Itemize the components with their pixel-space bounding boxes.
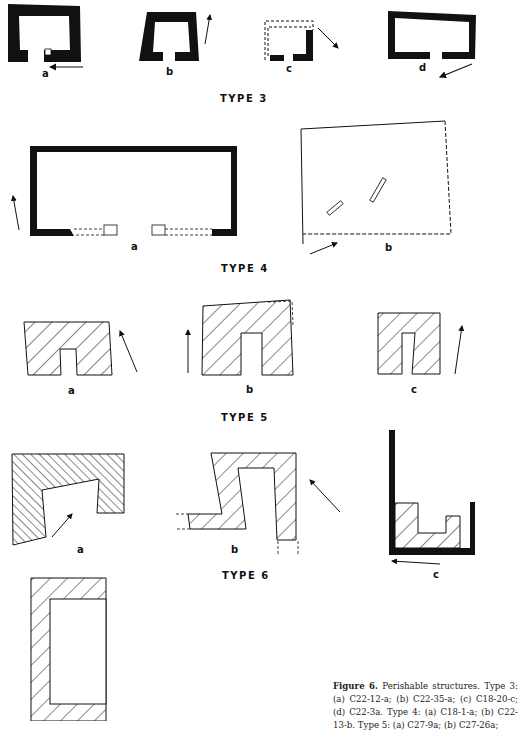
type4-heading: TYPE 4 [221,263,269,274]
type6-b-label: b [231,544,238,555]
type5-c-plan [378,313,462,374]
type5-a-plan [24,322,137,375]
type3-c-label: c [286,63,292,74]
type3-a-label: a [42,68,49,79]
type3-heading: TYPE 3 [220,93,268,104]
type4-a-label: a [131,241,138,252]
type6-a-plan [12,454,124,545]
type3-b-plan [139,12,210,61]
type5-b-plan [188,300,293,375]
type6-large-plan [31,578,106,721]
type6-a-label: a [77,544,84,555]
type5-a-label: a [68,385,75,396]
type4-b-label: b [385,242,392,253]
type3-d-plan [388,11,476,77]
type5-heading: TYPE 5 [221,412,269,423]
type3-c-plan [265,21,338,61]
type6-c-label: c [433,569,439,580]
type5-c-label: c [411,384,417,395]
type6-c-plan [389,430,475,564]
type6-b-plan [176,453,340,556]
type3-a-plan [8,4,83,67]
type4-a-plan [13,146,237,236]
type5-b-label: b [246,384,253,395]
type6-heading: TYPE 6 [222,570,270,581]
type3-d-label: d [419,62,426,73]
type3-b-label: b [166,66,173,77]
type4-b-plan [301,121,451,254]
figure-number: Figure 6. [333,681,378,691]
figure-caption: Figure 6. Perishable structures. Type 3:… [333,680,518,732]
